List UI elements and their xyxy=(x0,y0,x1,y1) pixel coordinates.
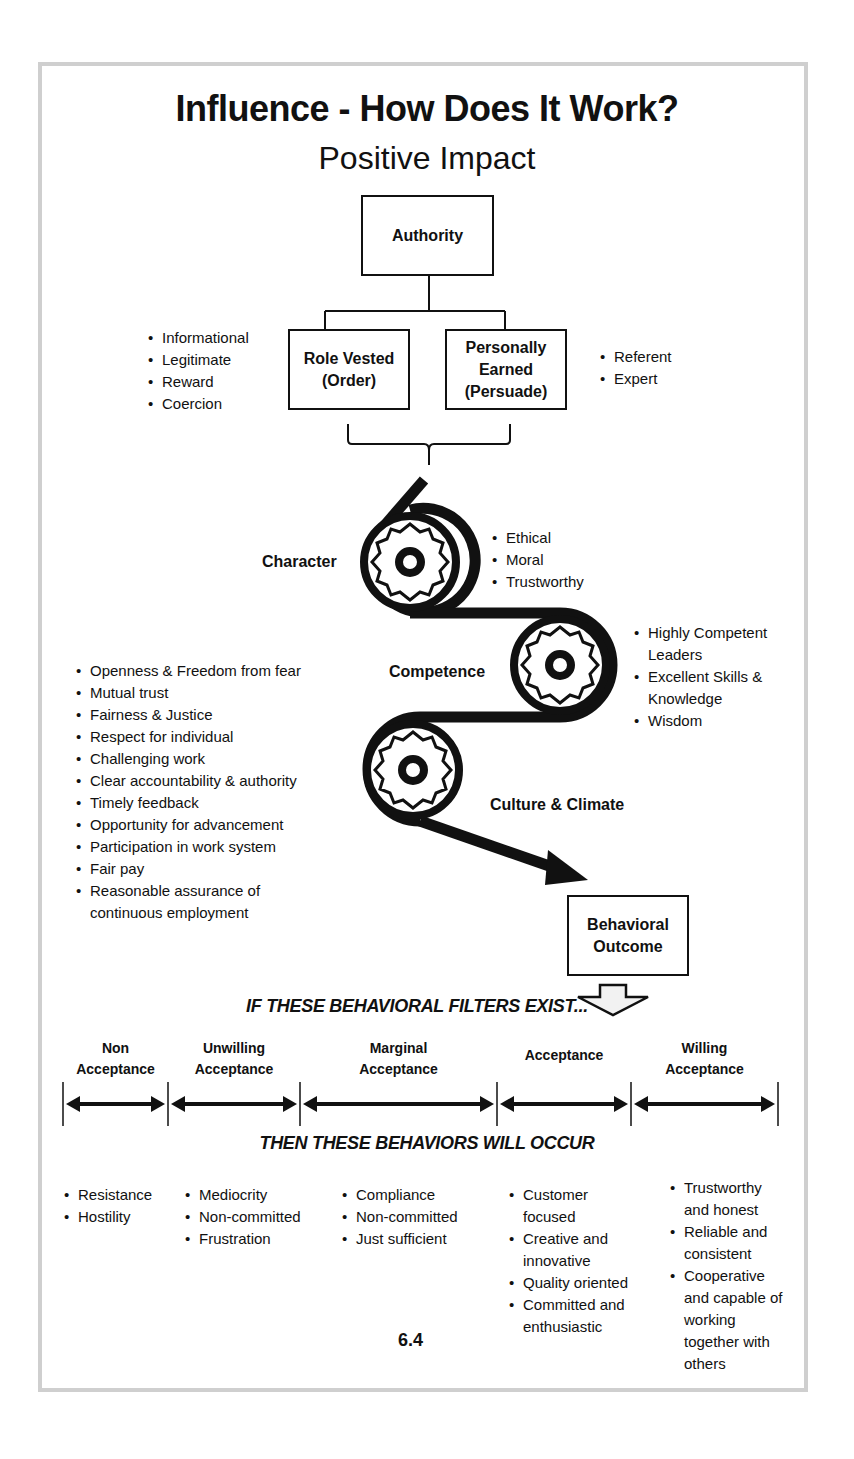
competence-label: Competence xyxy=(389,663,485,681)
list-item: Challenging work xyxy=(76,748,341,770)
list-item: Expert xyxy=(600,368,672,390)
category-label: Acceptance xyxy=(631,1059,778,1080)
gear-character-icon xyxy=(364,516,456,608)
category-label: Marginal xyxy=(300,1038,497,1059)
authority-label: Authority xyxy=(392,225,463,247)
list-item: Quality oriented xyxy=(509,1272,651,1294)
list-item: Wisdom xyxy=(634,710,784,732)
role-vested-sublabel: (Order) xyxy=(322,370,376,392)
list-item: Mediocrity xyxy=(185,1184,301,1206)
list-item: Committed and enthusiastic xyxy=(509,1294,653,1338)
list-item: Trustworthy and honest xyxy=(670,1177,788,1221)
list-item: Fairness & Justice xyxy=(76,704,341,726)
personally-earned-list: Referent Expert xyxy=(600,346,672,390)
list-item: Reasonable assurance of continuous emplo… xyxy=(76,880,290,924)
competence-list: Highly Competent Leaders Excellent Skill… xyxy=(634,622,784,732)
list-item: Non-committed xyxy=(185,1206,301,1228)
list-item: Cooperative and capable of working toget… xyxy=(670,1265,788,1375)
behaviors-acceptance: Customer focused Creative and innovative… xyxy=(509,1184,651,1338)
list-item: Resistance xyxy=(64,1184,152,1206)
role-vested-label: Role Vested xyxy=(304,348,395,370)
behavioral-outcome-box: Behavioral Outcome xyxy=(567,895,689,976)
category-marginal-acceptance: Marginal Acceptance xyxy=(300,1038,497,1080)
category-label: Acceptance xyxy=(63,1059,168,1080)
gear-culture-icon xyxy=(367,724,459,816)
role-vested-list: Informational Legitimate Reward Coercion xyxy=(148,327,249,415)
personally-earned-label-2: Earned xyxy=(479,359,533,381)
list-item: Compliance xyxy=(342,1184,458,1206)
list-item: Moral xyxy=(492,549,584,571)
category-label: Non xyxy=(63,1038,168,1059)
list-item: Creative and innovative xyxy=(509,1228,633,1272)
list-item: Clear accountability & authority xyxy=(76,770,341,792)
list-item: Hostility xyxy=(64,1206,152,1228)
list-item: Openness & Freedom from fear xyxy=(76,660,341,682)
list-item: Timely feedback xyxy=(76,792,341,814)
list-item: Reward xyxy=(148,371,249,393)
scale-arrows xyxy=(66,1096,775,1112)
list-item: Customer focused xyxy=(509,1184,613,1228)
authority-box: Authority xyxy=(361,195,494,276)
list-item: Highly Competent Leaders xyxy=(634,622,784,666)
category-acceptance: Acceptance xyxy=(497,1045,631,1066)
outcome-label-2: Outcome xyxy=(593,936,662,958)
personally-earned-sublabel: (Persuade) xyxy=(465,381,548,403)
list-item: Frustration xyxy=(185,1228,301,1250)
culture-climate-label: Culture & Climate xyxy=(490,796,624,814)
list-item: Opportunity for advancement xyxy=(76,814,341,836)
list-item: Just sufficient xyxy=(342,1228,458,1250)
list-item: Fair pay xyxy=(76,858,341,880)
list-item: Mutual trust xyxy=(76,682,341,704)
tree-connectors xyxy=(325,275,505,330)
list-item: Non-committed xyxy=(342,1206,458,1228)
personally-earned-label-1: Personally xyxy=(466,337,547,359)
if-filters-heading: IF THESE BEHAVIORAL FILTERS EXIST... xyxy=(0,996,844,1017)
personally-earned-box: Personally Earned (Persuade) xyxy=(445,329,567,410)
category-label: Acceptance xyxy=(497,1045,631,1066)
page-number: 6.4 xyxy=(398,1330,423,1351)
list-item: Legitimate xyxy=(148,349,249,371)
behaviors-unwilling-acceptance: Mediocrity Non-committed Frustration xyxy=(185,1184,301,1250)
category-label: Acceptance xyxy=(168,1059,300,1080)
category-willing-acceptance: Willing Acceptance xyxy=(631,1038,778,1080)
belt-arrow-icon xyxy=(545,850,588,885)
list-item: Informational xyxy=(148,327,249,349)
category-non-acceptance: Non Acceptance xyxy=(63,1038,168,1080)
brace-icon xyxy=(348,424,510,465)
role-vested-box: Role Vested (Order) xyxy=(288,329,410,410)
gear-competence-icon xyxy=(514,619,606,711)
list-item: Referent xyxy=(600,346,672,368)
list-item: Coercion xyxy=(148,393,249,415)
outcome-label-1: Behavioral xyxy=(587,914,669,936)
category-unwilling-acceptance: Unwilling Acceptance xyxy=(168,1038,300,1080)
category-label: Unwilling xyxy=(168,1038,300,1059)
list-item: Ethical xyxy=(492,527,584,549)
list-item: Trustworthy xyxy=(492,571,584,593)
category-label: Acceptance xyxy=(300,1059,497,1080)
behaviors-willing-acceptance: Trustworthy and honest Reliable and cons… xyxy=(670,1177,788,1375)
category-label: Willing xyxy=(631,1038,778,1059)
culture-list: Openness & Freedom from fear Mutual trus… xyxy=(76,660,341,924)
list-item: Excellent Skills & Knowledge xyxy=(634,666,784,710)
character-list: Ethical Moral Trustworthy xyxy=(492,527,584,593)
character-label: Character xyxy=(262,553,337,571)
list-item: Reliable and consistent xyxy=(670,1221,788,1265)
then-behaviors-heading: THEN THESE BEHAVIORS WILL OCCUR xyxy=(0,1133,854,1154)
behaviors-marginal-acceptance: Compliance Non-committed Just sufficient xyxy=(342,1184,458,1250)
list-item: Respect for individual xyxy=(76,726,341,748)
list-item: Participation in work system xyxy=(76,836,341,858)
behaviors-non-acceptance: Resistance Hostility xyxy=(64,1184,152,1228)
